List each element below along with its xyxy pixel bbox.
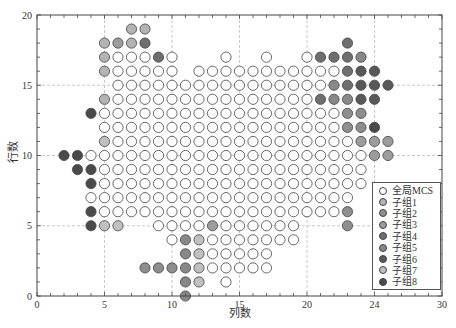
y-axis-label: 行数 — [7, 141, 19, 163]
data-point — [248, 235, 258, 245]
data-point — [275, 80, 285, 90]
data-point — [180, 221, 190, 231]
data-point — [180, 263, 190, 273]
data-point — [126, 80, 136, 90]
legend-item-subgroup-3: 子组3 — [373, 219, 440, 230]
data-point — [126, 164, 136, 174]
data-point — [59, 150, 69, 160]
data-point — [288, 136, 298, 146]
circle-marker-icon — [379, 198, 387, 206]
data-point — [234, 150, 244, 160]
data-point — [153, 136, 163, 146]
data-point — [329, 193, 339, 203]
data-point — [356, 150, 366, 160]
data-point — [356, 136, 366, 146]
data-point — [140, 94, 150, 104]
data-point — [194, 80, 204, 90]
data-point — [153, 150, 163, 160]
data-point — [356, 52, 366, 62]
data-point — [275, 193, 285, 203]
data-point — [369, 136, 379, 146]
data-point — [99, 207, 109, 217]
data-point — [248, 94, 258, 104]
data-point — [234, 179, 244, 189]
data-point — [207, 193, 217, 203]
legend-label: 子组4 — [392, 231, 417, 242]
legend-item-global-mcs: 全局MCS — [373, 185, 440, 196]
data-point — [302, 164, 312, 174]
data-point — [140, 52, 150, 62]
data-point — [153, 66, 163, 76]
data-point — [167, 207, 177, 217]
data-point — [261, 66, 271, 76]
data-point — [356, 108, 366, 118]
data-point — [221, 207, 231, 217]
data-point — [329, 94, 339, 104]
data-point — [153, 179, 163, 189]
data-point — [126, 52, 136, 62]
data-point — [329, 108, 339, 118]
data-point — [153, 80, 163, 90]
data-point — [342, 122, 352, 132]
data-point — [221, 263, 231, 273]
data-point — [234, 164, 244, 174]
x-tick-label: 20 — [302, 299, 312, 310]
data-point — [329, 52, 339, 62]
data-point — [221, 108, 231, 118]
data-point — [302, 207, 312, 217]
data-point — [126, 24, 136, 34]
data-point — [180, 122, 190, 132]
data-point — [167, 179, 177, 189]
data-point — [315, 150, 325, 160]
data-point — [221, 52, 231, 62]
data-point — [180, 179, 190, 189]
data-point — [86, 179, 96, 189]
data-point — [99, 221, 109, 231]
data-point — [342, 66, 352, 76]
data-point — [234, 80, 244, 90]
data-point — [180, 235, 190, 245]
data-point — [153, 193, 163, 203]
y-tick-label: 15 — [22, 80, 32, 91]
data-point — [261, 235, 271, 245]
data-point — [315, 80, 325, 90]
data-point — [167, 94, 177, 104]
legend-item-subgroup-1: 子组1 — [373, 196, 440, 207]
data-point — [167, 263, 177, 273]
data-point — [194, 193, 204, 203]
data-point — [261, 52, 271, 62]
data-point — [356, 179, 366, 189]
data-point — [329, 66, 339, 76]
data-point — [234, 249, 244, 259]
data-point — [248, 136, 258, 146]
data-point — [180, 207, 190, 217]
data-point — [72, 150, 82, 160]
data-point — [140, 207, 150, 217]
data-point — [99, 66, 109, 76]
legend-item-subgroup-4: 子组4 — [373, 231, 440, 242]
data-point — [113, 80, 123, 90]
data-point — [275, 150, 285, 160]
data-point — [194, 235, 204, 245]
data-point — [153, 263, 163, 273]
data-point — [180, 249, 190, 259]
data-point — [302, 94, 312, 104]
data-point — [180, 277, 190, 287]
data-point — [234, 66, 244, 76]
data-point — [221, 94, 231, 104]
data-point — [329, 207, 339, 217]
data-point — [194, 164, 204, 174]
data-point — [261, 193, 271, 203]
data-point — [140, 108, 150, 118]
data-point — [113, 52, 123, 62]
data-point — [275, 122, 285, 132]
data-point — [261, 80, 271, 90]
data-point — [167, 122, 177, 132]
data-point — [194, 207, 204, 217]
legend-label: 子组8 — [392, 276, 417, 287]
data-point — [113, 207, 123, 217]
data-point — [99, 164, 109, 174]
data-point — [140, 38, 150, 48]
data-point — [221, 164, 231, 174]
data-point — [383, 150, 393, 160]
